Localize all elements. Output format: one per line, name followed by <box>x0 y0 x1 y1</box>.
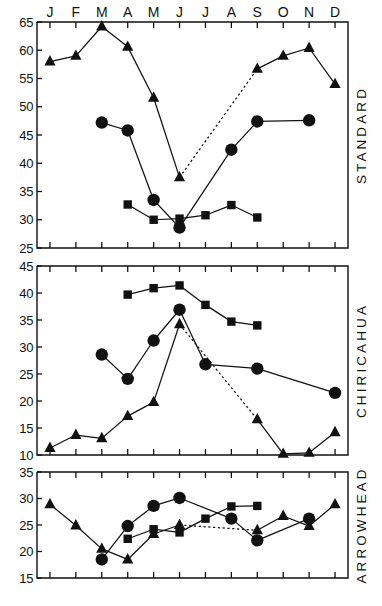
data-point-square <box>149 216 157 224</box>
figure-root: JFMAMJJASOND253035404550556065STANDARD10… <box>0 0 382 606</box>
month-label-a-3: A <box>123 4 133 20</box>
y-tick-label: 35 <box>19 184 33 199</box>
series-segment-circle <box>257 120 309 121</box>
data-point-circle <box>122 373 134 385</box>
data-point-triangle <box>329 498 340 508</box>
panel-frame-standard <box>37 22 348 248</box>
y-tick-label: 50 <box>19 99 33 114</box>
data-point-square <box>227 317 235 325</box>
data-point-square <box>201 301 209 309</box>
y-tick-label: 15 <box>19 571 33 586</box>
data-point-triangle <box>174 519 185 529</box>
data-point-circle <box>173 304 185 316</box>
data-point-triangle <box>122 40 133 50</box>
series-segment-circle <box>128 130 154 199</box>
month-label-n-10: N <box>304 4 314 20</box>
data-point-triangle <box>44 498 55 508</box>
data-point-triangle <box>329 426 340 436</box>
data-point-square <box>149 284 157 292</box>
data-point-circle <box>147 194 159 206</box>
y-tick-label: 30 <box>19 491 33 506</box>
data-point-square <box>201 514 209 522</box>
data-point-square <box>124 290 132 298</box>
data-point-circle <box>122 124 134 136</box>
data-point-circle <box>96 553 108 565</box>
series-segment-triangle <box>257 419 283 454</box>
y-tick-label: 40 <box>19 156 33 171</box>
data-point-triangle <box>122 410 133 420</box>
data-point-triangle <box>252 524 263 534</box>
series-segment-triangle <box>76 27 102 56</box>
y-tick-label: 40 <box>19 286 33 301</box>
y-tick-label: 20 <box>19 394 33 409</box>
data-point-circle <box>96 116 108 128</box>
data-point-circle <box>225 512 237 524</box>
month-label-o-9: O <box>278 4 289 20</box>
y-tick-label: 25 <box>19 241 33 256</box>
data-point-triangle <box>304 446 315 456</box>
data-point-square <box>175 214 183 222</box>
y-tick-label: 10 <box>19 448 33 463</box>
data-point-circle <box>173 221 185 233</box>
data-point-square <box>253 321 261 329</box>
panel-title-arrowhead: ARROWHEAD <box>354 466 369 583</box>
data-point-triangle <box>148 91 159 101</box>
series-segment-triangle <box>154 98 180 178</box>
data-point-square <box>227 502 235 510</box>
data-point-circle <box>303 114 315 126</box>
month-label-j-6: J <box>202 4 209 20</box>
series-segment-triangle <box>180 69 258 177</box>
series-segment-circle <box>128 341 154 379</box>
data-point-square <box>175 528 183 536</box>
chart-canvas: JFMAMJJASOND253035404550556065STANDARD10… <box>0 0 382 606</box>
data-point-triangle <box>70 519 81 529</box>
data-point-circle <box>173 492 185 504</box>
series-segment-circle <box>257 519 309 541</box>
y-tick-label: 45 <box>19 259 33 274</box>
series-segment-triangle <box>128 47 154 98</box>
y-tick-label: 45 <box>19 128 33 143</box>
data-point-triangle <box>96 432 107 442</box>
data-point-triangle <box>278 510 289 520</box>
y-tick-label: 35 <box>19 465 33 480</box>
data-point-square <box>124 200 132 208</box>
data-point-circle <box>96 348 108 360</box>
month-label-s-8: S <box>253 4 262 20</box>
panel-title-chiricahua: CHIRICAHUA <box>354 303 369 418</box>
data-point-triangle <box>44 442 55 452</box>
data-point-circle <box>251 534 263 546</box>
y-tick-label: 35 <box>19 313 33 328</box>
data-point-circle <box>225 143 237 155</box>
month-label-f-1: F <box>72 4 81 20</box>
data-point-square <box>175 281 183 289</box>
data-point-triangle <box>148 396 159 406</box>
data-point-circle <box>329 387 341 399</box>
data-point-circle <box>122 520 134 532</box>
month-label-m-4: M <box>148 4 160 20</box>
series-segment-triangle <box>180 324 258 419</box>
data-point-circle <box>147 500 159 512</box>
data-point-square <box>227 201 235 209</box>
y-tick-label: 55 <box>19 71 33 86</box>
y-tick-label: 30 <box>19 340 33 355</box>
data-point-triangle <box>96 542 107 552</box>
data-point-triangle <box>304 42 315 52</box>
panel-frame-chiricahua <box>37 266 348 455</box>
y-tick-label: 15 <box>19 421 33 436</box>
y-tick-label: 60 <box>19 43 33 58</box>
data-point-square <box>253 213 261 221</box>
month-label-d-11: D <box>330 4 340 20</box>
data-point-circle <box>303 512 315 524</box>
y-tick-label: 30 <box>19 212 33 227</box>
month-label-a-7: A <box>227 4 237 20</box>
month-label-m-2: M <box>96 4 108 20</box>
month-label-j-5: J <box>176 4 183 20</box>
panel-title-standard: STANDARD <box>354 86 369 184</box>
y-tick-label: 25 <box>19 518 33 533</box>
series-segment-circle <box>257 369 335 393</box>
series-segment-circle <box>180 310 206 365</box>
data-point-circle <box>147 334 159 346</box>
data-point-square <box>253 502 261 510</box>
series-segment-triangle <box>309 48 335 84</box>
data-point-square <box>201 211 209 219</box>
